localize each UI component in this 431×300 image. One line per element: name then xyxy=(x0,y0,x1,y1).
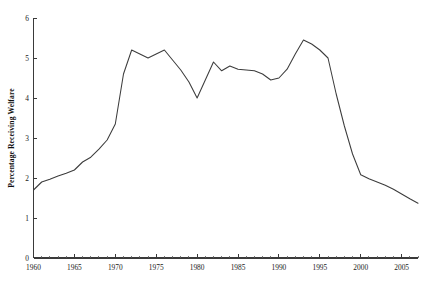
y-axis-title: Percentage Receiving Welfare xyxy=(7,88,16,188)
y-axis-tick-label: 2 xyxy=(25,174,29,183)
x-axis-tick-label: 2005 xyxy=(394,263,409,272)
y-axis-tick-label: 6 xyxy=(25,14,29,23)
x-axis-tick-label: 1975 xyxy=(149,263,164,272)
y-axis-tick-label: 1 xyxy=(25,214,29,223)
y-axis: 0123456 xyxy=(25,14,36,263)
welfare-line-chart: 0123456 19601965197019751980198519901995… xyxy=(0,0,431,300)
y-axis-tick-label: 5 xyxy=(25,54,29,63)
x-axis-tick-label: 1985 xyxy=(231,263,246,272)
series-line xyxy=(34,40,419,203)
chart-plot-area: 0123456 19601965197019751980198519901995… xyxy=(0,0,431,300)
y-axis-tick-label: 0 xyxy=(25,254,29,263)
x-axis: 1960196519701975198019851990199520002005 xyxy=(26,254,418,272)
data-series xyxy=(34,40,419,203)
x-axis-tick-label: 1995 xyxy=(312,263,327,272)
x-axis-tick-label: 1970 xyxy=(108,263,123,272)
x-axis-tick-label: 1980 xyxy=(190,263,205,272)
x-axis-tick-label: 1990 xyxy=(272,263,287,272)
x-axis-tick-label: 1960 xyxy=(26,263,41,272)
y-axis-tick-label: 3 xyxy=(25,134,29,143)
x-axis-tick-label: 1965 xyxy=(67,263,82,272)
x-axis-tick-label: 2000 xyxy=(353,263,368,272)
y-axis-tick-label: 4 xyxy=(25,94,29,103)
y-axis-title-label: Percentage Receiving Welfare xyxy=(7,88,16,188)
